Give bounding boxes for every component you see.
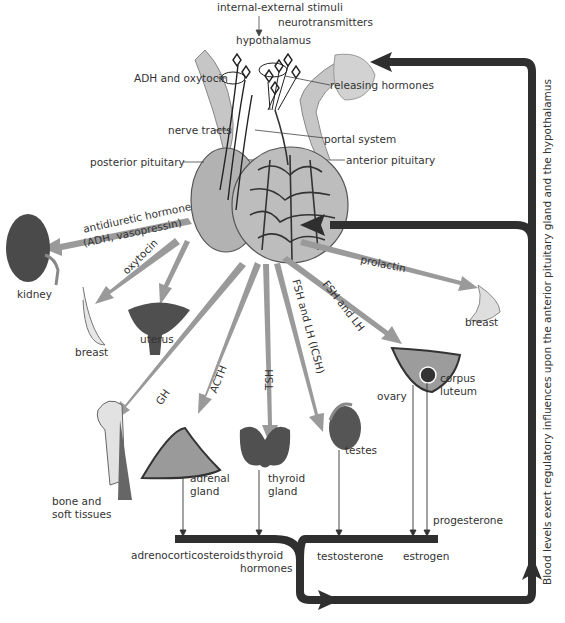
label-anterior-pituitary: anterior pituitary bbox=[346, 154, 435, 166]
label-neurotransmitters: neurotransmitters bbox=[278, 16, 373, 28]
label-adrenal-line2: gland bbox=[190, 485, 219, 497]
label-feedback: Blood levels exert regulatory influences… bbox=[541, 79, 553, 585]
label-tsh: TSH bbox=[263, 369, 275, 390]
label-portal-system: portal system bbox=[324, 133, 396, 145]
label-adrenal-line1: adrenal bbox=[190, 472, 230, 484]
label-progesterone: progesterone bbox=[433, 514, 503, 526]
label-kidney: kidney bbox=[17, 288, 52, 300]
diagram-canvas bbox=[0, 0, 565, 623]
label-breast-left: breast bbox=[75, 346, 108, 358]
label-posterior-pituitary: posterior pituitary bbox=[90, 156, 185, 168]
label-adh-oxytocin: ADH and oxytocin bbox=[134, 72, 228, 84]
label-testes: testes bbox=[345, 444, 377, 456]
label-releasing-hormones: releasing hormones bbox=[330, 79, 434, 91]
label-bone-line2: soft tissues bbox=[52, 508, 111, 520]
label-corpus-line1: corpus bbox=[440, 372, 475, 384]
label-stimuli: internal-external stimuli bbox=[217, 1, 343, 13]
label-adrenocorticosteroids: adrenocorticosteroids bbox=[131, 549, 245, 561]
label-breast-right: breast bbox=[465, 316, 498, 328]
product-arrows bbox=[180, 383, 430, 536]
label-testosterone: testosterone bbox=[317, 550, 383, 562]
label-uterus: uterus bbox=[140, 333, 174, 345]
label-thyroid-gland-line1: thyroid bbox=[268, 472, 305, 484]
label-corpus-line2: luteum bbox=[440, 385, 477, 397]
label-ovary: ovary bbox=[377, 390, 407, 402]
label-estrogen: estrogen bbox=[403, 550, 449, 562]
label-thyroid-hormones-line2: hormones bbox=[240, 562, 292, 574]
label-bone-line1: bone and bbox=[52, 495, 101, 507]
label-nerve-tracts: nerve tracts bbox=[168, 124, 232, 136]
label-thyroid-hormones-line1: thyroid bbox=[246, 549, 283, 561]
label-hypothalamus: hypothalamus bbox=[236, 34, 311, 46]
label-thyroid-gland-line2: gland bbox=[268, 485, 297, 497]
